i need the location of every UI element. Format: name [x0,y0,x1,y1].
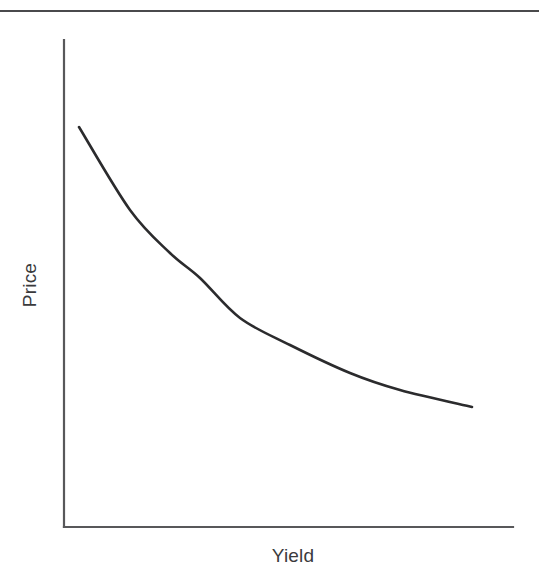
price-yield-curve [79,127,472,407]
chart-plot-area [0,0,539,585]
y-axis-label: Price [19,263,41,307]
x-axis-label: Yield [272,545,315,567]
price-yield-figure: Price Yield [0,0,539,585]
